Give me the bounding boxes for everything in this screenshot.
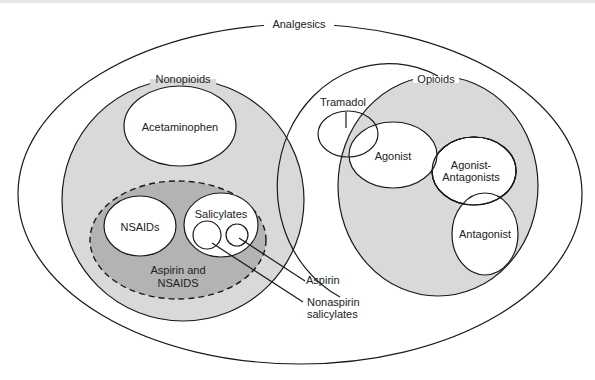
- nonaspirin-callout-label-line1: Nonaspirin: [307, 296, 360, 308]
- salicylates-label: Salicylates: [195, 208, 248, 220]
- nonaspirin-callout-label-line2: salicylates: [307, 308, 358, 320]
- salicylates-ellipse: [184, 193, 258, 257]
- nonaspirin-circle: [193, 221, 221, 249]
- agonist-antagonists-label-line2: Antagonists: [442, 171, 500, 183]
- nsaids-label: NSAIDs: [120, 221, 160, 233]
- agonist-antagonists-label-line1: Agonist-: [451, 159, 492, 171]
- diagram-svg: Analgesics Nonopioids Acetaminophen Aspi…: [0, 0, 595, 380]
- analgesics-venn-diagram: Analgesics Nonopioids Acetaminophen Aspi…: [0, 0, 595, 380]
- tramadol-label: Tramadol: [320, 96, 366, 108]
- aspirin-callout-label: Aspirin: [306, 274, 340, 286]
- acetaminophen-label: Acetaminophen: [142, 121, 218, 133]
- nonopioids-label: Nonopioids: [155, 73, 211, 85]
- agonist-label: Agonist: [375, 150, 412, 162]
- aspirin-nsaids-label-line2: NSAIDS: [158, 277, 199, 289]
- antagonist-label: Antagonist: [459, 228, 511, 240]
- aspirin-circle: [226, 224, 248, 246]
- aspirin-nsaids-label-line1: Aspirin and: [150, 264, 205, 276]
- analgesics-label: Analgesics: [272, 18, 326, 30]
